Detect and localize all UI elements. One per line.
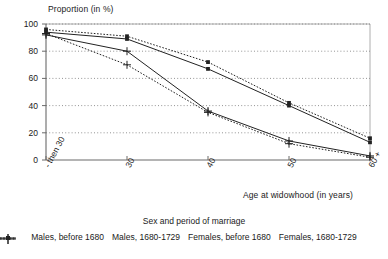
legend-item-females-1680-1729: Females, 1680-1729 [279,233,357,242]
legend-item-males-before-1680: Males, before 1680 [31,233,104,242]
legend-label: Females, 1680-1729 [279,233,357,242]
y-tick-label: 60 [12,74,38,83]
chart-legend: Males, before 1680 Males, 1680-1729 Fema… [0,233,388,242]
chart-figure: Proportion (in %) Age at widowhood (in y… [0,0,388,259]
y-tick-label: 20 [12,129,38,138]
y-tick-label: 100 [12,20,38,29]
legend-label: Males, 1680-1729 [112,233,180,242]
y-tick-label: 40 [12,102,38,111]
legend-swatch-icon [0,233,16,245]
y-tick-label: 0 [12,156,38,165]
legend-item-males-1680-1729: Males, 1680-1729 [112,233,180,242]
legend-title: Sex and period of marriage [0,216,388,226]
y-tick-label: 80 [12,47,38,56]
legend-item-females-before-1680: Females, before 1680 [188,233,271,242]
plot-area [0,0,388,210]
legend-label: Males, before 1680 [31,233,104,242]
legend-label: Females, before 1680 [188,233,271,242]
